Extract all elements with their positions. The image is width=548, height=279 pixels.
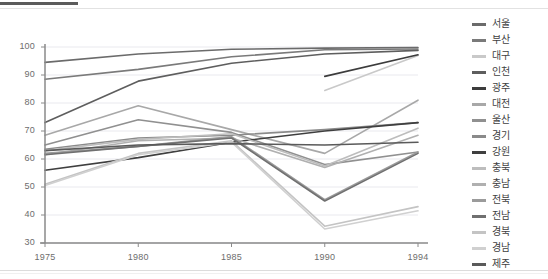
legend-item-대전[interactable]: 대전 [472, 96, 544, 112]
legend-item-label: 서울 [492, 16, 510, 32]
legend-item-제주[interactable]: 제주 [472, 256, 544, 272]
legend-item-label: 경남 [492, 240, 510, 256]
chart-legend: 서울부산대구인천광주대전울산경기강원충북충남전북전남경북경남제주 [472, 16, 544, 272]
x-tick-label: 1975 [25, 252, 65, 262]
legend-item-label: 인천 [492, 64, 510, 80]
legend-swatch-icon [472, 231, 486, 234]
legend-swatch-icon [472, 119, 486, 122]
legend-swatch-icon [472, 199, 486, 202]
line-chart-svg [0, 0, 440, 279]
legend-item-광주[interactable]: 광주 [472, 80, 544, 96]
legend-swatch-icon [472, 263, 486, 266]
legend-swatch-icon [472, 183, 486, 186]
legend-swatch-icon [472, 247, 486, 250]
legend-swatch-icon [472, 103, 486, 106]
legend-item-경기[interactable]: 경기 [472, 128, 544, 144]
y-tick-label: 60 [11, 153, 35, 163]
legend-item-전남[interactable]: 전남 [472, 208, 544, 224]
series-line-3 [45, 50, 418, 122]
y-tick-label: 100 [11, 41, 35, 51]
legend-item-label: 충북 [492, 160, 510, 176]
series-line-13 [45, 141, 418, 226]
legend-item-label: 제주 [492, 256, 510, 272]
x-tick-label: 1985 [212, 252, 252, 262]
legend-item-label: 울산 [492, 112, 510, 128]
legend-item-울산[interactable]: 울산 [472, 112, 544, 128]
legend-swatch-icon [472, 215, 486, 218]
legend-item-서울[interactable]: 서울 [472, 16, 544, 32]
legend-swatch-icon [472, 71, 486, 74]
legend-item-label: 강원 [492, 144, 510, 160]
legend-item-충북[interactable]: 충북 [472, 160, 544, 176]
legend-item-label: 경북 [492, 224, 510, 240]
y-tick-label: 50 [11, 181, 35, 191]
legend-item-label: 부산 [492, 32, 510, 48]
legend-item-label: 전남 [492, 208, 510, 224]
legend-item-label: 광주 [492, 80, 510, 96]
legend-item-label: 충남 [492, 176, 510, 192]
legend-item-대구[interactable]: 대구 [472, 48, 544, 64]
y-tick-label: 90 [11, 69, 35, 79]
legend-item-label: 대전 [492, 96, 510, 112]
legend-item-충남[interactable]: 충남 [472, 176, 544, 192]
legend-item-label: 경기 [492, 128, 510, 144]
legend-item-부산[interactable]: 부산 [472, 32, 544, 48]
x-tick-label: 1990 [305, 252, 345, 262]
legend-swatch-icon [472, 87, 486, 90]
chart-root: 30405060708090100 19751980198519901994 서… [0, 0, 548, 279]
legend-item-강원[interactable]: 강원 [472, 144, 544, 160]
legend-swatch-icon [472, 167, 486, 170]
legend-item-전북[interactable]: 전북 [472, 192, 544, 208]
legend-swatch-icon [472, 55, 486, 58]
legend-item-경남[interactable]: 경남 [472, 240, 544, 256]
y-tick-label: 30 [11, 237, 35, 247]
x-tick-label: 1994 [398, 252, 438, 262]
y-tick-label: 80 [11, 97, 35, 107]
legend-item-label: 전북 [492, 192, 510, 208]
legend-item-인천[interactable]: 인천 [472, 64, 544, 80]
y-tick-label: 40 [11, 209, 35, 219]
x-tick-label: 1980 [118, 252, 158, 262]
legend-item-label: 대구 [492, 48, 510, 64]
legend-swatch-icon [472, 151, 486, 154]
legend-item-경북[interactable]: 경북 [472, 224, 544, 240]
y-tick-label: 70 [11, 125, 35, 135]
legend-swatch-icon [472, 23, 486, 26]
legend-swatch-icon [472, 39, 486, 42]
legend-swatch-icon [472, 135, 486, 138]
plot-area: 30405060708090100 19751980198519901994 [0, 0, 440, 279]
